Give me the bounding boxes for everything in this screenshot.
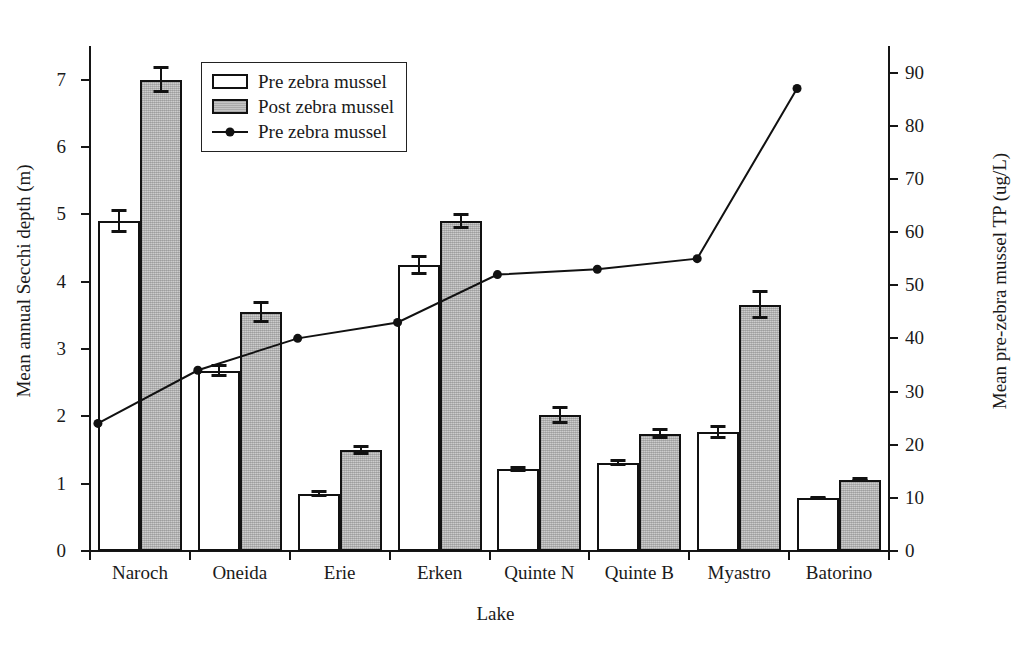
y-axis-left-tick [81, 550, 89, 552]
line-data-point-marker [593, 265, 602, 274]
y-axis-right-tick-label: 0 [905, 541, 915, 560]
x-axis-tick [189, 552, 191, 560]
line-data-point-marker [693, 254, 702, 263]
x-axis-tick [588, 552, 590, 560]
line-data-point-marker [793, 84, 802, 93]
x-axis-category-label: Quinte N [490, 562, 590, 584]
bar-pre-zebra-mussel [398, 265, 440, 551]
legend-label: Post zebra mussel [258, 97, 394, 116]
bar-post-zebra-mussel [440, 221, 482, 551]
x-axis-category-label: Oneida [190, 562, 290, 584]
y-axis-right-tick [890, 337, 898, 339]
bar-pre-zebra-mussel [98, 221, 140, 551]
x-axis-tick [89, 552, 91, 560]
x-axis-category-label: Erie [290, 562, 390, 584]
x-axis-tick [688, 552, 690, 560]
bar-post-zebra-mussel [140, 80, 182, 551]
legend-label: Pre zebra mussel [258, 72, 387, 91]
y-axis-right-tick-label: 10 [905, 488, 924, 507]
y-axis-left-tick-label: 1 [57, 474, 67, 493]
bar-post-zebra-mussel [539, 415, 581, 551]
bar-pre-zebra-mussel [797, 498, 839, 551]
y-axis-right-tick [890, 444, 898, 446]
y-axis-right-tick [890, 284, 898, 286]
line-data-point-marker [493, 270, 502, 279]
x-axis-category-label: Quinte B [589, 562, 689, 584]
legend-item-post-bar: Post zebra mussel [212, 94, 394, 119]
bar-pre-zebra-mussel [697, 432, 739, 551]
x-axis-tick [489, 552, 491, 560]
y-axis-right-line [888, 46, 890, 552]
x-axis-category-label: Erken [390, 562, 490, 584]
y-axis-right-title: Mean pre-zebra mussel TP (ug/L) [989, 71, 1011, 491]
legend-item-pre-line: Pre zebra mussel [212, 119, 394, 144]
bar-post-zebra-mussel [839, 480, 881, 551]
y-axis-left-title: Mean annual Secchi depth (m) [13, 71, 35, 491]
bar-pre-zebra-mussel [497, 469, 539, 551]
y-axis-right-tick [890, 72, 898, 74]
y-axis-right-tick [890, 391, 898, 393]
chart-legend: Pre zebra mussel Post zebra mussel Pre z… [201, 62, 407, 152]
bar-pre-zebra-mussel [298, 494, 340, 551]
y-axis-right-tick-label: 80 [905, 116, 924, 135]
bar-post-zebra-mussel [739, 305, 781, 551]
bar-post-zebra-mussel [639, 434, 681, 551]
y-axis-right-tick-label: 30 [905, 382, 924, 401]
y-axis-left-tick [81, 483, 89, 485]
y-axis-left-tick [81, 79, 89, 81]
x-axis-title: Lake [0, 603, 991, 625]
x-axis-category-label: Myastro [689, 562, 789, 584]
x-axis-tick [289, 552, 291, 560]
y-axis-right-tick-label: 20 [905, 435, 924, 454]
y-axis-right-tick [890, 125, 898, 127]
x-axis-category-label: Batorino [789, 562, 889, 584]
bar-post-zebra-mussel [340, 450, 382, 551]
legend-item-pre-bar: Pre zebra mussel [212, 69, 394, 94]
y-axis-right-tick-label: 70 [905, 169, 924, 188]
line-data-point-marker [293, 334, 302, 343]
y-axis-right-tick-label: 40 [905, 328, 924, 347]
legend-label: Pre zebra mussel [258, 122, 387, 141]
x-axis-tick [788, 552, 790, 560]
y-axis-right-tick [890, 178, 898, 180]
y-axis-left-tick-label: 3 [57, 339, 67, 358]
x-axis-tick [888, 552, 890, 560]
x-axis-category-label: Naroch [90, 562, 190, 584]
y-axis-right-tick [890, 231, 898, 233]
y-axis-left-tick [81, 281, 89, 283]
x-axis-tick [389, 552, 391, 560]
y-axis-left-tick-label: 4 [57, 272, 67, 291]
bar-pre-zebra-mussel [597, 463, 639, 551]
y-axis-left-tick [81, 348, 89, 350]
bar-pre-zebra-mussel [198, 371, 240, 551]
y-axis-right-tick-label: 50 [905, 275, 924, 294]
y-axis-left-tick [81, 415, 89, 417]
legend-open-square-icon [212, 74, 248, 89]
y-axis-right-tick [890, 497, 898, 499]
y-axis-right-tick-label: 90 [905, 63, 924, 82]
y-axis-left-tick [81, 146, 89, 148]
legend-line-dot-icon [212, 124, 248, 139]
y-axis-right-tick [890, 550, 898, 552]
y-axis-left-line [89, 46, 91, 552]
legend-gray-square-icon [212, 99, 248, 114]
y-axis-left-tick [81, 213, 89, 215]
y-axis-left-tick-label: 7 [57, 70, 67, 89]
y-axis-left-tick-label: 5 [57, 204, 67, 223]
y-axis-left-tick-label: 0 [57, 541, 67, 560]
y-axis-left-tick-label: 6 [57, 137, 67, 156]
y-axis-right-tick-label: 60 [905, 222, 924, 241]
y-axis-left-tick-label: 2 [57, 406, 67, 425]
bar-post-zebra-mussel [240, 312, 282, 551]
